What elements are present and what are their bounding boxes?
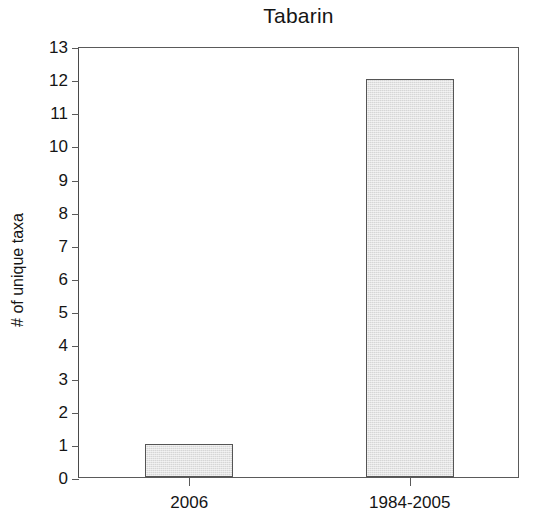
y-axis-tick-label: 6 [59, 270, 68, 290]
y-axis-tick [72, 147, 79, 148]
y-axis-tick-label: 4 [59, 336, 68, 356]
y-axis-tick-label: 12 [49, 71, 68, 91]
y-axis-tick-label: 3 [59, 370, 68, 390]
x-axis-tick-label: 1984-2005 [369, 493, 450, 513]
y-axis-tick [72, 413, 79, 414]
y-axis-tick-label: 1 [59, 436, 68, 456]
x-axis-tick [189, 477, 190, 486]
bar [366, 79, 454, 477]
bar [145, 444, 233, 477]
plot-area: 131211109876543210 20061984-2005 [78, 47, 519, 478]
y-axis-tick [72, 48, 79, 49]
y-axis-tick-label: 9 [59, 171, 68, 191]
y-axis-tick [72, 214, 79, 215]
chart-title: Tabarin [78, 4, 519, 28]
x-axis-tick-label: 2006 [170, 493, 208, 513]
y-axis-tick [72, 81, 79, 82]
y-axis-title: # of unique taxa [6, 170, 30, 370]
y-axis-tick-label: 7 [59, 237, 68, 257]
y-axis-tick [72, 280, 79, 281]
y-axis-tick-label: 2 [59, 403, 68, 423]
y-axis-tick [72, 446, 79, 447]
y-axis-tick-label: 11 [50, 104, 68, 124]
y-axis-title-text: # of unique taxa [9, 213, 27, 327]
y-axis-tick [72, 346, 79, 347]
y-axis-tick [72, 181, 79, 182]
y-axis-tick-label: 13 [49, 38, 68, 58]
y-axis-tick [72, 313, 79, 314]
y-axis-tick-label: 0 [59, 469, 68, 489]
x-axis-tick [410, 477, 411, 486]
y-axis-tick [72, 479, 79, 480]
y-axis-tick-label: 10 [49, 137, 68, 157]
bar-chart: Tabarin # of unique taxa 131211109876543… [0, 0, 536, 532]
y-axis-tick [72, 380, 79, 381]
y-axis-tick [72, 247, 79, 248]
y-axis-tick-label: 5 [59, 303, 68, 323]
y-axis-tick-label: 8 [59, 204, 68, 224]
y-axis-tick [72, 114, 79, 115]
